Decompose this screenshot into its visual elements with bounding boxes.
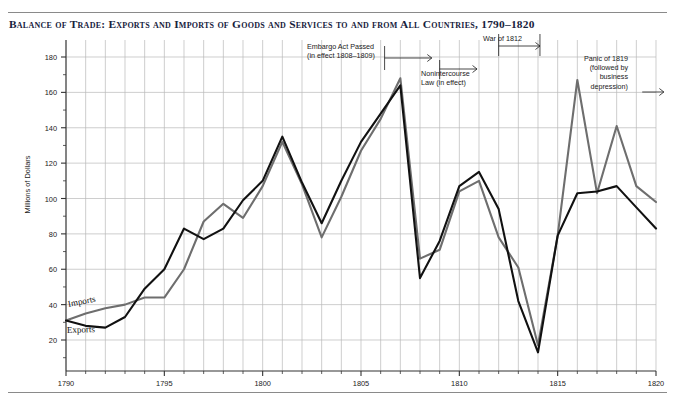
series-label-exports: Exports: [67, 324, 95, 335]
svg-text:80: 80: [49, 230, 57, 239]
svg-text:1805: 1805: [353, 379, 369, 388]
annotation-war-of-1812: War of 1812: [483, 34, 522, 43]
svg-text:60: 60: [49, 265, 57, 274]
svg-text:20: 20: [49, 336, 57, 345]
svg-text:1800: 1800: [254, 379, 270, 388]
svg-text:1810: 1810: [451, 379, 467, 388]
svg-text:140: 140: [45, 124, 57, 133]
x-tick-labels: 1790179518001805181018151820: [58, 379, 664, 388]
svg-text:160: 160: [45, 88, 57, 97]
svg-text:1795: 1795: [156, 379, 172, 388]
svg-text:1790: 1790: [58, 379, 74, 388]
svg-text:1820: 1820: [648, 379, 664, 388]
annotation-embargo-act: Embargo Act Passed (in effect 1808–1809): [307, 42, 375, 60]
svg-text:180: 180: [45, 53, 57, 62]
y-tick-labels: 20406080100120140160180: [45, 53, 57, 345]
svg-text:120: 120: [45, 159, 57, 168]
annotation-nonintercourse-law: Nonintercourse Law (in effect): [421, 69, 470, 87]
y-axis-label: Millions of Dollars: [23, 140, 32, 230]
svg-text:1815: 1815: [549, 379, 565, 388]
figure-balance-of-trade: Balance of Trade: Exports and Imports of…: [0, 0, 675, 408]
annotation-panic-of-1819: Panic of 1819 (followed by business depr…: [548, 54, 628, 91]
svg-text:100: 100: [45, 195, 57, 204]
svg-text:40: 40: [49, 301, 57, 310]
